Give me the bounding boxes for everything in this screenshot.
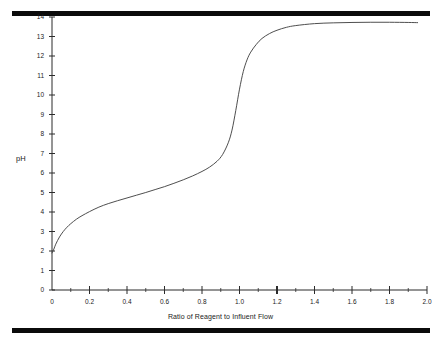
y-tick-label: 7: [30, 150, 44, 157]
y-tick-label: 14: [30, 13, 44, 20]
x-tick-label: 0.4: [116, 298, 138, 305]
y-tick-label: 0: [30, 286, 44, 293]
y-tick-label: 12: [30, 52, 44, 59]
x-tick-label: 0.8: [191, 298, 213, 305]
x-tick-label: 1.2: [266, 298, 288, 305]
y-axis-label: pH: [16, 154, 26, 163]
x-tick-label: 0.2: [79, 298, 101, 305]
y-tick-label: 10: [30, 91, 44, 98]
chart-axes: [52, 17, 427, 290]
x-tick-label: 0.6: [154, 298, 176, 305]
y-tick-label: 1: [30, 267, 44, 274]
y-tick-label: 8: [30, 130, 44, 137]
chart-plot-area: [0, 0, 441, 340]
y-tick-label: 5: [30, 189, 44, 196]
titration-curve: [52, 22, 418, 253]
figure-page: pH Ratio of Reagent to Influent Flow 012…: [0, 0, 441, 340]
x-tick-label: 1.6: [341, 298, 363, 305]
chart-series: [52, 22, 418, 253]
y-tick-label: 4: [30, 208, 44, 215]
y-tick-label: 13: [30, 33, 44, 40]
y-tick-label: 3: [30, 228, 44, 235]
y-tick-label: 9: [30, 111, 44, 118]
x-tick-label: 1.4: [304, 298, 326, 305]
x-tick-label: 1.8: [379, 298, 401, 305]
x-tick-label: 1.0: [229, 298, 251, 305]
y-tick-label: 6: [30, 169, 44, 176]
y-tick-label: 2: [30, 247, 44, 254]
x-axis-label: Ratio of Reagent to Influent Flow: [0, 313, 441, 320]
x-tick-label: 0: [41, 298, 63, 305]
x-tick-label: 2.0: [416, 298, 438, 305]
y-tick-label: 11: [30, 72, 44, 79]
